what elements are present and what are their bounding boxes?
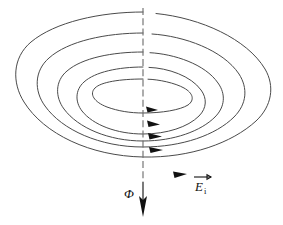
physics-figure-canvas: Φ E i <box>0 0 283 225</box>
induced-field-subscript-label: i <box>204 186 207 196</box>
field-line-inner-5 <box>92 79 192 113</box>
circulation-arrowhead-3 <box>148 133 162 140</box>
circulation-arrowhead-5 <box>173 172 187 179</box>
circulation-arrowhead-1 <box>146 107 158 113</box>
circulation-arrowhead-2 <box>147 121 160 128</box>
field-line-2 <box>37 33 245 147</box>
field-diagram-svg: Φ E i <box>0 0 283 225</box>
field-line-3 <box>58 52 224 141</box>
induced-field-label: E <box>194 179 203 194</box>
flux-label: Φ <box>124 186 134 201</box>
circulation-arrowhead-4 <box>149 147 163 153</box>
induced-field-label-group: E i <box>194 175 211 196</box>
circulation-arrowhead-group <box>146 107 187 179</box>
